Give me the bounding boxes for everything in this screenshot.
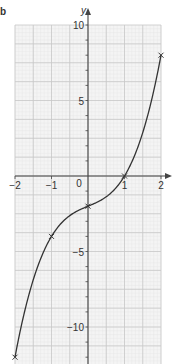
svg-text:1: 1 xyxy=(122,180,128,191)
svg-text:−1: −1 xyxy=(46,180,58,191)
svg-text:0: 0 xyxy=(76,178,82,189)
svg-text:−5: −5 xyxy=(73,247,85,258)
svg-text:5: 5 xyxy=(78,96,84,107)
svg-text:y: y xyxy=(80,5,87,16)
svg-text:10: 10 xyxy=(73,20,85,31)
svg-text:−10: −10 xyxy=(67,322,84,333)
cubic-graph: y−2−1012−10−5510 xyxy=(0,0,172,364)
svg-text:2: 2 xyxy=(158,180,164,191)
svg-text:−2: −2 xyxy=(9,180,21,191)
